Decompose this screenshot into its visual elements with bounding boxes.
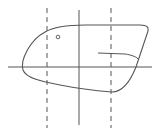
- closed-outline-shape: [22, 25, 148, 92]
- inner-curve-line: [98, 53, 139, 60]
- diagram-figure: [0, 0, 159, 134]
- marker-circle: [56, 35, 60, 39]
